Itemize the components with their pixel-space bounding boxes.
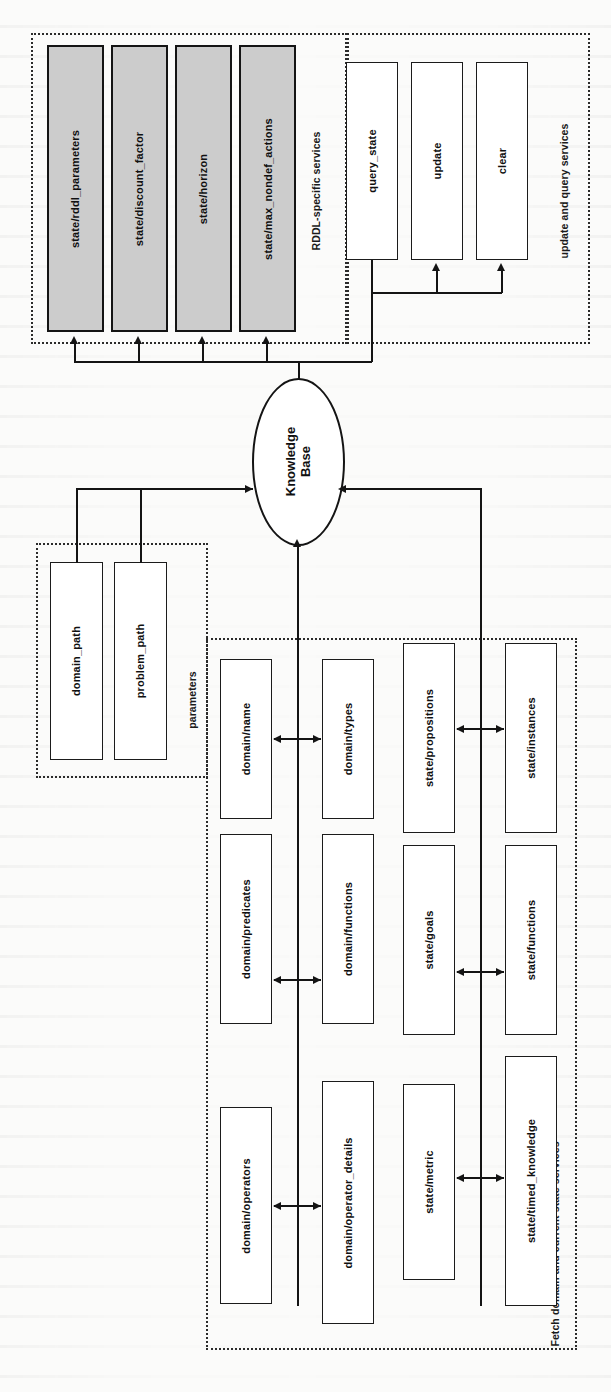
service-box-state-discount-factor[interactable]: state/discount_factor [111,45,168,332]
group-label-update-and-query-services: update and query services [558,124,570,259]
connector-query-state-stem [371,260,373,293]
knowledge-base-label: Knowledge Base [284,427,313,496]
service-box-label: domain/operators [240,1158,252,1253]
bus-stem-horizon [202,344,204,362]
service-box-label: state/instances [525,697,537,779]
service-box-domain-operators[interactable]: domain/operators [220,1107,272,1304]
service-box-update[interactable]: update [411,62,463,260]
service-box-label: domain/name [240,703,252,776]
service-box-label: domain_path [71,626,83,696]
arrowhead-update [432,263,440,271]
service-box-label: query_state [366,129,378,192]
service-box-state-instances[interactable]: state/instances [505,643,557,833]
spine-domain-services [297,546,299,1306]
bus-stem-discount-factor [138,344,140,362]
service-box-state-propositions[interactable]: state/propositions [403,643,455,833]
arrowhead-domain-name [273,735,281,743]
arrowhead-clear [497,263,505,271]
service-box-label: state/propositions [423,689,435,787]
arrowhead-state-spine-to-knowledge-base [338,485,346,493]
service-box-label: state/goals [423,910,435,969]
arrowhead-domain-operator-details [313,1202,321,1210]
arrowhead-state-metric [456,1174,464,1182]
arrowhead-state-discount-factor [134,336,142,344]
bus-rddl-services [74,361,372,363]
service-box-label: domain/types [342,703,354,776]
connector-parameters-bus [76,488,253,490]
spine-state-services [480,488,482,1306]
service-box-state-metric[interactable]: state/metric [403,1084,455,1280]
service-box-state-goals[interactable]: state/goals [403,845,455,1035]
service-box-state-max-nondef-actions[interactable]: state/max_nondef_actions [239,45,296,332]
service-box-query-state[interactable]: query_state [346,62,398,260]
knowledge-base-label-line2: Base [298,446,313,477]
connector-query-state-to-bus [371,292,373,362]
arrowhead-state-functions [496,968,504,976]
group-label-parameters: parameters [186,671,198,729]
service-box-domain-types[interactable]: domain/types [322,659,374,819]
service-box-label: clear [496,148,508,174]
service-box-problem-path[interactable]: problem_path [114,562,167,760]
service-box-label: problem_path [135,624,147,699]
service-box-state-functions[interactable]: state/functions [505,845,557,1035]
arrowhead-state-propositions [456,725,464,733]
arrowhead-state-instances [496,725,504,733]
knowledge-base-label-line1: Knowledge [283,427,298,496]
service-box-label: state/functions [525,900,537,980]
service-box-domain-functions[interactable]: domain/functions [322,834,374,1024]
arrowhead-state-goals [456,968,464,976]
arrowhead-state-max-nondef-actions [262,336,270,344]
connector-clear-stem [501,270,503,293]
service-box-label: state/metric [423,1150,435,1214]
connector-state-spine-to-knowledge-base [345,488,481,490]
arrowhead-state-horizon [198,336,206,344]
knowledge-base-node[interactable]: Knowledge Base [252,378,345,546]
service-box-state-horizon[interactable]: state/horizon [175,45,232,332]
arrowhead-domain-functions [313,976,321,984]
connector-domain-path-stem [76,489,78,563]
service-box-label: state/rddl_parameters [70,129,82,247]
group-label-rddl-specific-services: RDDL-specific services [310,132,322,251]
service-box-domain-operator-details[interactable]: domain/operator_details [322,1081,374,1324]
arrowhead-state-timed-knowledge [496,1174,504,1182]
arrowhead-domain-types [313,735,321,743]
service-box-state-rddl-parameters[interactable]: state/rddl_parameters [47,45,104,332]
service-box-state-timed-knowledge[interactable]: state/timed_knowledge [505,1056,557,1306]
service-box-label: update [431,143,443,180]
service-box-label: state/discount_factor [134,131,146,245]
service-box-label: state/horizon [198,153,210,223]
arrowhead-domain-predicates [273,976,281,984]
service-box-domain-path[interactable]: domain_path [50,562,103,760]
service-box-label: domain/operator_details [342,1137,354,1268]
diagram-canvas: RDDL-specific services state/rddl_parame… [0,0,611,1392]
service-box-clear[interactable]: clear [476,62,528,260]
bus-stem-rddl-parameters [74,344,76,362]
service-box-label: domain/functions [342,882,354,976]
service-box-label: state/max_nondef_actions [262,118,274,260]
arrowhead-parameters-to-knowledge-base [245,485,253,493]
service-box-domain-name[interactable]: domain/name [220,659,272,819]
connector-problem-path-stem [140,489,142,563]
arrowhead-domain-spine-to-knowledge-base [293,539,301,547]
connector-update-stem [436,270,438,293]
service-box-label: state/timed_knowledge [525,1119,537,1243]
service-box-domain-predicates[interactable]: domain/predicates [220,834,272,1024]
service-box-label: domain/predicates [240,879,252,979]
arrowhead-domain-operators [273,1202,281,1210]
bus-stem-max-nondef-actions [266,344,268,362]
arrowhead-state-rddl-parameters [70,336,78,344]
